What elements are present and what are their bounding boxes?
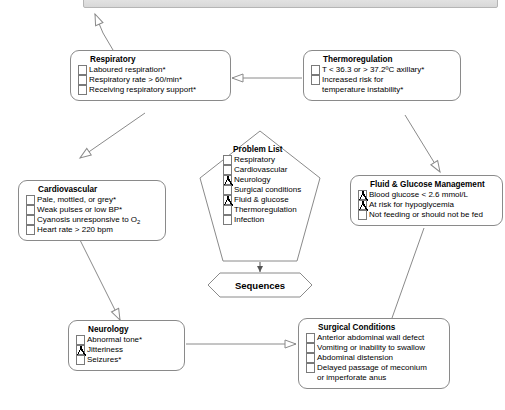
node-cardiovascular-items: Pale, mottled, or grey* Weak pulses or l… <box>26 195 158 235</box>
checklist-item[interactable]: Cyanosis unresponsive to O2 <box>26 215 158 225</box>
problem-list-content: Problem List Respiratory Cardiovascular … <box>223 145 319 225</box>
top-truncated-panel <box>83 0 498 8</box>
checklist-item[interactable]: Heart rate > 220 bpm <box>26 225 158 235</box>
checkbox[interactable] <box>223 185 232 195</box>
checklist-item[interactable]: At risk for hypoglycemia <box>358 200 495 210</box>
checklist-item[interactable]: T < 36.3 or > 37.2ºC axillary* <box>311 65 453 75</box>
checkbox[interactable] <box>306 343 315 353</box>
node-thermoregulation-title: Thermoregulation <box>323 55 453 65</box>
checklist-item[interactable]: Blood glucose < 2.6 mmol/L <box>358 190 495 200</box>
node-cardiovascular-title: Cardiovascular <box>38 185 158 195</box>
checklist-item[interactable]: Cardiovascular <box>223 165 319 175</box>
node-surgical-conditions[interactable]: Surgical Conditions Anterior abdominal w… <box>298 318 450 389</box>
checklist-item[interactable]: Infection <box>223 215 319 225</box>
checkbox-checked[interactable] <box>358 200 367 210</box>
sequences-label: Sequences <box>207 272 313 298</box>
checkbox[interactable] <box>26 215 35 225</box>
checkbox[interactable] <box>78 85 87 95</box>
checkbox[interactable] <box>306 333 315 343</box>
checkbox[interactable] <box>311 65 320 75</box>
checkbox[interactable] <box>76 335 85 345</box>
checkbox[interactable] <box>358 210 367 220</box>
checkbox[interactable] <box>223 165 232 175</box>
checklist-item[interactable]: Thermoregulation <box>223 205 319 215</box>
connector-respiratory-to-top <box>95 14 113 50</box>
checklist-item[interactable]: Fluid & glucose <box>223 195 319 205</box>
checkbox[interactable] <box>311 75 320 85</box>
checklist-item[interactable]: Abdominal distension <box>306 353 442 363</box>
node-problem-list-title: Problem List <box>233 145 319 155</box>
node-respiratory[interactable]: Respiratory Laboured respiration* Respir… <box>70 50 231 101</box>
connector-thermo-to-fluid <box>405 115 440 172</box>
node-neurology[interactable]: Neurology Abnormal tone* Jitteriness Sei… <box>68 320 185 371</box>
checkbox[interactable] <box>306 363 315 373</box>
checklist-item-continuation: temperature instability* <box>311 85 453 95</box>
checklist-item[interactable]: Jitteriness <box>76 345 177 355</box>
checkbox-checked[interactable] <box>223 195 232 205</box>
checkbox-spacer <box>306 373 315 383</box>
checkbox[interactable] <box>78 65 87 75</box>
node-problem-list[interactable]: Problem List Respiratory Cardiovascular … <box>199 130 321 270</box>
connector-respiratory-to-cardiovascular <box>80 113 145 158</box>
checklist-item[interactable]: Respiratory rate > 60/min* <box>78 75 223 85</box>
checklist-item[interactable]: Weak pulses or low BP* <box>26 205 158 215</box>
checklist-item[interactable]: Vomiting or inability to swallow <box>306 343 442 353</box>
checkbox[interactable] <box>78 75 87 85</box>
connector-cardiovascular-to-neurology <box>75 230 120 320</box>
checklist-item[interactable]: Seizures* <box>76 355 177 365</box>
checklist-item[interactable]: Pale, mottled, or grey* <box>26 195 158 205</box>
checklist-item-continuation: or imperforate anus <box>306 373 442 383</box>
checkbox[interactable] <box>306 353 315 363</box>
checkbox[interactable] <box>76 355 85 365</box>
checkbox-checked[interactable] <box>223 175 232 185</box>
checklist-item[interactable]: Respiratory <box>223 155 319 165</box>
node-thermoregulation-items: T < 36.3 or > 37.2ºC axillary* Increased… <box>311 65 453 95</box>
checkbox[interactable] <box>26 205 35 215</box>
node-fluid-glucose-management[interactable]: Fluid & Glucose Management Blood glucose… <box>350 175 503 226</box>
checklist-item[interactable]: Delayed passage of meconium <box>306 363 442 373</box>
connector-fluid-to-surgical <box>392 228 424 318</box>
checklist-item[interactable]: Surgical conditions <box>223 185 319 195</box>
checkbox-spacer <box>311 85 320 95</box>
checklist-item[interactable]: Increased risk for <box>311 75 453 85</box>
node-respiratory-items: Laboured respiration* Respiratory rate >… <box>78 65 223 95</box>
checklist-item[interactable]: Anterior abdominal wall defect <box>306 333 442 343</box>
checklist-item[interactable]: Laboured respiration* <box>78 65 223 75</box>
checkbox[interactable] <box>26 225 35 235</box>
node-cardiovascular[interactable]: Cardiovascular Pale, mottled, or grey* W… <box>18 180 166 241</box>
checkbox-checked[interactable] <box>76 345 85 355</box>
checklist-item[interactable]: Neurology <box>223 175 319 185</box>
node-neurology-items: Abnormal tone* Jitteriness Seizures* <box>76 335 177 365</box>
diagram-canvas: Respiratory Laboured respiration* Respir… <box>0 0 505 410</box>
node-fluid-glucose-items: Blood glucose < 2.6 mmol/L At risk for h… <box>358 190 495 220</box>
checkbox[interactable] <box>223 155 232 165</box>
checklist-item[interactable]: Not feeding or should not be fed <box>358 210 495 220</box>
node-thermoregulation[interactable]: Thermoregulation T < 36.3 or > 37.2ºC ax… <box>303 50 461 101</box>
node-fluid-glucose-title: Fluid & Glucose Management <box>370 180 495 190</box>
checkbox-checked[interactable] <box>358 190 367 200</box>
checklist-item[interactable]: Abnormal tone* <box>76 335 177 345</box>
checkbox[interactable] <box>26 195 35 205</box>
node-problem-list-items: Respiratory Cardiovascular Neurology Sur… <box>223 155 319 225</box>
checkbox[interactable] <box>223 215 232 225</box>
node-respiratory-title: Respiratory <box>90 55 223 65</box>
node-neurology-title: Neurology <box>88 325 177 335</box>
node-surgical-conditions-items: Anterior abdominal wall defect Vomiting … <box>306 333 442 383</box>
node-sequences[interactable]: Sequences <box>207 272 313 298</box>
checkbox[interactable] <box>223 205 232 215</box>
item-text: Cyanosis unresponsive to O <box>37 215 137 224</box>
node-surgical-conditions-title: Surgical Conditions <box>318 323 442 333</box>
checklist-item[interactable]: Receiving respiratory support* <box>78 85 223 95</box>
